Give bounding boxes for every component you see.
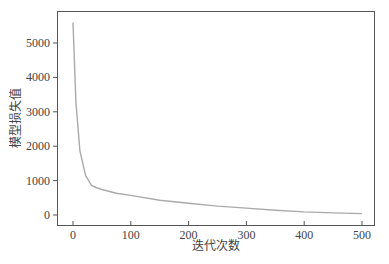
loss-curve	[73, 22, 362, 213]
y-tick-label: 0	[44, 208, 50, 222]
x-axis-title: 迭代次数	[192, 238, 240, 253]
y-axis-ticks: 010002000300040005000	[26, 36, 58, 222]
y-axis-title: 模型损失值	[8, 88, 23, 148]
y-tick-label: 1000	[26, 174, 50, 188]
plot-frame	[58, 12, 375, 226]
y-tick-label: 5000	[26, 36, 50, 50]
y-tick-label: 4000	[26, 70, 50, 84]
y-tick-label: 2000	[26, 139, 50, 153]
x-tick-label: 400	[295, 228, 313, 242]
y-tick-label: 3000	[26, 105, 50, 119]
loss-chart: 010002000300040005000 0100200300400500 迭…	[0, 0, 389, 264]
x-tick-label: 300	[237, 228, 255, 242]
x-tick-label: 0	[70, 228, 76, 242]
x-tick-label: 100	[122, 228, 140, 242]
x-tick-label: 500	[353, 228, 371, 242]
